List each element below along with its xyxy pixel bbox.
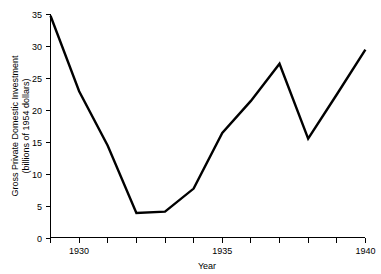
y-tick-label-20: 20 — [32, 106, 42, 116]
x-tick-label-1930: 1930 — [69, 246, 89, 256]
y-tick-label-35: 35 — [32, 10, 42, 20]
line-chart: 0 5 10 15 20 25 30 35 1930 193 — [0, 0, 381, 274]
chart-background — [0, 0, 381, 274]
y-tick-label-30: 30 — [32, 42, 42, 52]
x-tick-label-1935: 1935 — [212, 246, 232, 256]
x-tick-label-1940: 1940 — [355, 246, 375, 256]
chart-figure: 0 5 10 15 20 25 30 35 1930 193 — [0, 0, 381, 274]
y-tick-label-15: 15 — [32, 138, 42, 148]
y-tick-label-5: 5 — [37, 202, 42, 212]
y-axis-title-line2: (billions of 1954 dollars) — [21, 78, 31, 173]
y-tick-label-0: 0 — [37, 234, 42, 244]
y-tick-label-25: 25 — [32, 74, 42, 84]
x-axis-title: Year — [198, 261, 216, 271]
y-tick-label-10: 10 — [32, 170, 42, 180]
y-axis-title-line1: Gross Private Domestic Investment — [10, 55, 20, 197]
